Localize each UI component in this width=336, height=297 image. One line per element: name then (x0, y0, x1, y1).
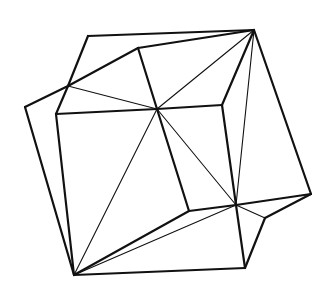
edge-B-I (254, 30, 311, 194)
edge-N-J (74, 205, 236, 275)
edge-L-M (245, 218, 265, 268)
edge-F-G (56, 109, 157, 114)
edge-G-N (74, 109, 157, 275)
outer-edges (25, 30, 311, 275)
edge-C-G (138, 48, 157, 109)
edge-N-K (74, 211, 189, 275)
edge-J-L (236, 205, 265, 218)
edge-J-M (236, 205, 245, 268)
edge-H-G (157, 105, 222, 109)
edge-D-G (68, 86, 157, 109)
edge-B-J (236, 30, 254, 205)
edge-F-N (56, 114, 74, 275)
edge-D-C (68, 48, 138, 86)
edge-B-H (222, 30, 254, 105)
facet-diagonals (68, 30, 265, 275)
edge-A-D (68, 36, 88, 86)
edge-E-D (25, 86, 68, 107)
polyhedron-diagram (0, 0, 336, 297)
edge-E-N (25, 107, 74, 275)
edge-M-N (74, 268, 245, 275)
edge-G-K (157, 109, 189, 211)
